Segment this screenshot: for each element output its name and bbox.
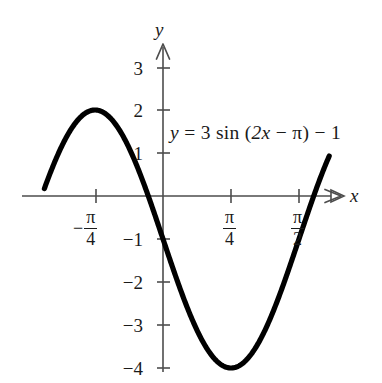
y-tick-label-3: 3 bbox=[117, 59, 143, 78]
equation-lhs: y bbox=[170, 122, 179, 143]
y-tick-label-neg3: −3 bbox=[110, 316, 143, 335]
plot-canvas bbox=[0, 0, 382, 383]
equation-inner-coefficient: 2x bbox=[252, 122, 271, 143]
x-axis-arrowhead bbox=[331, 190, 344, 202]
fraction-numerator: π bbox=[291, 208, 304, 229]
x-tick-label-pi-over-4: π4 bbox=[223, 208, 236, 249]
fraction-denominator: 4 bbox=[84, 229, 97, 249]
equation-equals: = bbox=[184, 122, 195, 143]
x-tick-label-neg-pi-over-4: −π4 bbox=[73, 208, 97, 249]
equation-annotation: y = 3 sin (2x − π) − 1 bbox=[170, 123, 341, 143]
x-tick-label-pi-over-2: π2 bbox=[291, 208, 304, 249]
fraction-numerator: π bbox=[223, 208, 236, 229]
fraction-numerator: π bbox=[84, 208, 97, 229]
y-tick-label-1: 1 bbox=[117, 144, 143, 163]
fraction-pi-over-4: π4 bbox=[223, 208, 236, 249]
equation-inner-shift: π bbox=[292, 122, 302, 143]
fraction-denominator: 4 bbox=[223, 229, 236, 249]
fraction-denominator: 2 bbox=[291, 229, 304, 249]
fraction-pi-over-2: π2 bbox=[291, 208, 304, 249]
equation-amplitude: 3 bbox=[201, 122, 211, 143]
equation-inner-minus: − bbox=[276, 122, 287, 143]
equation-vertical-shift: 1 bbox=[331, 122, 341, 143]
x-tick-neg-sign: − bbox=[73, 218, 84, 239]
equation-close-paren: ) bbox=[302, 122, 309, 143]
equation-function: sin bbox=[216, 122, 240, 143]
x-axis-label: x bbox=[350, 186, 358, 205]
y-tick-label-neg4: −4 bbox=[110, 359, 143, 378]
y-tick-label-neg2: −2 bbox=[110, 273, 143, 292]
graph-figure: y x 3 2 1 −1 −2 −3 −4 −π4 π4 π2 y = 3 si… bbox=[0, 0, 382, 383]
fraction-pi-over-4: π4 bbox=[84, 208, 97, 249]
equation-open-paren: ( bbox=[245, 122, 252, 143]
y-axis-label: y bbox=[155, 20, 163, 39]
y-tick-label-neg1: −1 bbox=[110, 230, 143, 249]
equation-outer-minus: − bbox=[314, 122, 325, 143]
y-tick-label-2: 2 bbox=[117, 101, 143, 120]
